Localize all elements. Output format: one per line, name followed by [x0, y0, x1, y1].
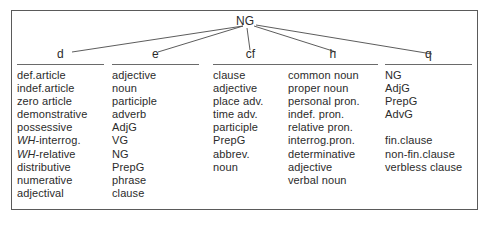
list-item: demonstrative	[17, 108, 104, 121]
list-item: adjective	[288, 161, 378, 174]
column-q: q NGAdjGPrepGAdvG fin.clausenon-fin.clau…	[385, 47, 472, 174]
column-cf-rule	[213, 64, 288, 65]
list-item: VG	[112, 134, 199, 147]
list-item: NG	[385, 69, 472, 82]
column-q-items: NGAdjGPrepGAdvG fin.clausenon-fin.clause…	[385, 69, 472, 174]
column-e: e adjectivenounparticipleadverbAdjGVGNGP…	[112, 47, 199, 200]
list-item: AdjG	[385, 82, 472, 95]
list-item: adjective	[213, 82, 288, 95]
list-item: def.article	[17, 69, 104, 82]
list-item: AdvG	[385, 108, 472, 121]
list-item: non-fin.clause	[385, 148, 472, 161]
column-d-rule	[17, 64, 104, 65]
list-item: indef.article	[17, 82, 104, 95]
list-item: clause	[112, 187, 199, 200]
list-item: NG	[112, 148, 199, 161]
list-item: common noun	[288, 69, 378, 82]
list-item: adjectival	[17, 187, 104, 200]
list-item-spacer	[385, 121, 472, 134]
column-cf: cf clauseadjectiveplace adv.time adv.par…	[213, 47, 288, 174]
list-item: numerative	[17, 174, 104, 187]
column-cf-header: cf	[213, 47, 288, 62]
column-d-items: def.articleindef.articlezero articledemo…	[17, 69, 104, 200]
list-item: noun	[213, 161, 288, 174]
column-e-header: e	[112, 47, 199, 62]
list-item: participle	[213, 121, 288, 134]
list-item: place adv.	[213, 95, 288, 108]
list-item: fin.clause	[385, 134, 472, 147]
list-item: PrepG	[385, 95, 472, 108]
list-item: interrog.pron.	[288, 134, 378, 147]
column-e-items: adjectivenounparticipleadverbAdjGVGNGPre…	[112, 69, 199, 200]
list-item: PrepG	[112, 161, 199, 174]
column-d-header: d	[17, 47, 104, 62]
list-item: noun	[112, 82, 199, 95]
column-h-header: h	[288, 47, 378, 62]
list-item: zero article	[17, 95, 104, 108]
column-e-rule	[112, 64, 199, 65]
list-item: adjective	[112, 69, 199, 82]
noun-group-tree-figure: NG d def.articleindef.articlezero articl…	[0, 0, 500, 230]
list-item: proper noun	[288, 82, 378, 95]
list-item: verbal noun	[288, 174, 378, 187]
list-item: abbrev.	[213, 148, 288, 161]
column-cf-items: clauseadjectiveplace adv.time adv.partic…	[213, 69, 288, 174]
list-item: phrase	[112, 174, 199, 187]
list-item: personal pron.	[288, 95, 378, 108]
list-item: verbless clause	[385, 161, 472, 174]
list-item: clause	[213, 69, 288, 82]
wh-prefix: WH	[17, 148, 36, 160]
function-columns: d def.articleindef.articlezero articlede…	[0, 0, 500, 230]
list-item: possessive	[17, 121, 104, 134]
wh-prefix: WH	[17, 134, 36, 146]
list-item: indef. pron.	[288, 108, 378, 121]
list-item: distributive	[17, 161, 104, 174]
list-item: PrepG	[213, 134, 288, 147]
column-h-rule	[288, 64, 378, 65]
column-h: h common nounproper nounpersonal pron.in…	[288, 47, 378, 187]
list-item: time adv.	[213, 108, 288, 121]
list-item: WH-interrog.	[17, 134, 104, 147]
column-q-header: q	[385, 47, 472, 62]
list-item: adverb	[112, 108, 199, 121]
column-q-rule	[385, 64, 472, 65]
list-item: participle	[112, 95, 199, 108]
column-h-items: common nounproper nounpersonal pron.inde…	[288, 69, 378, 187]
list-item: AdjG	[112, 121, 199, 134]
list-item: WH-relative	[17, 148, 104, 161]
list-item: relative pron.	[288, 121, 378, 134]
column-d: d def.articleindef.articlezero articlede…	[17, 47, 104, 200]
list-item: determinative	[288, 148, 378, 161]
